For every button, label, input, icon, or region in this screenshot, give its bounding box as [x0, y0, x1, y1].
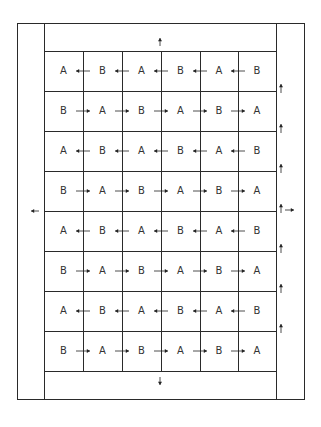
arrow-left-icon — [115, 309, 129, 313]
arrow-right-icon — [231, 109, 245, 113]
arrow-right-icon — [115, 269, 129, 273]
arrow-right-icon — [154, 189, 168, 193]
arrow-left-icon — [76, 69, 90, 73]
arrow-right-icon — [231, 269, 245, 273]
arrow-left-icon — [154, 309, 168, 313]
arrow-up-icon — [279, 124, 283, 133]
arrow-right-icon — [193, 269, 207, 273]
arrow-right-icon — [115, 189, 129, 193]
arrow-up-icon — [279, 324, 283, 333]
arrow-right-icon — [285, 208, 294, 212]
arrow-left-icon — [193, 229, 207, 233]
arrow-right-icon — [193, 109, 207, 113]
arrow-left-icon — [76, 149, 90, 153]
arrow-left-icon — [154, 229, 168, 233]
arrow-left-icon — [154, 149, 168, 153]
arrow-right-icon — [76, 109, 90, 113]
arrow-left-icon — [231, 149, 245, 153]
arrow-up-icon — [279, 284, 283, 293]
arrow-right-icon — [76, 189, 90, 193]
arrow-up-icon — [158, 38, 162, 46]
arrow-up-icon — [279, 164, 283, 173]
arrow-left-icon — [76, 309, 90, 313]
arrow-left-icon — [193, 309, 207, 313]
arrow-right-icon — [231, 189, 245, 193]
arrow-left-icon — [115, 149, 129, 153]
arrow-left-icon — [231, 229, 245, 233]
arrow-right-icon — [193, 349, 207, 353]
arrow-left-icon — [31, 209, 39, 213]
arrow-left-icon — [154, 69, 168, 73]
arrow-right-icon — [115, 109, 129, 113]
arrow-right-icon — [193, 189, 207, 193]
arrow-left-icon — [115, 229, 129, 233]
arrow-right-icon — [76, 349, 90, 353]
arrow-right-icon — [154, 109, 168, 113]
arrow-left-icon — [193, 149, 207, 153]
arrow-left-icon — [115, 69, 129, 73]
arrow-left-icon — [76, 229, 90, 233]
arrow-up-icon — [279, 84, 283, 93]
arrow-up-icon — [279, 244, 283, 253]
arrow-left-icon — [231, 69, 245, 73]
arrow-down-icon — [158, 377, 162, 385]
arrow-right-icon — [154, 349, 168, 353]
arrow-right-icon — [76, 269, 90, 273]
arrow-right-icon — [154, 269, 168, 273]
arrows-layer — [0, 0, 321, 427]
arrow-left-icon — [231, 309, 245, 313]
arrow-right-icon — [115, 349, 129, 353]
arrow-right-icon — [231, 349, 245, 353]
arrow-left-icon — [193, 69, 207, 73]
arrow-up-icon — [279, 204, 283, 213]
